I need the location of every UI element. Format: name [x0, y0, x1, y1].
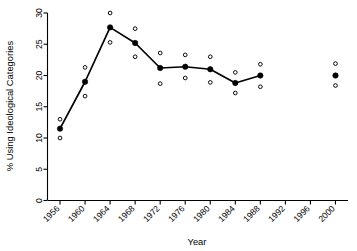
- ci-bound-marker: [133, 27, 137, 31]
- y-tick-label: 5: [34, 167, 44, 172]
- ci-bound-marker: [259, 62, 263, 66]
- ci-bound-marker: [158, 82, 162, 86]
- ci-bound-marker: [233, 71, 237, 75]
- y-tick-label: 0: [34, 198, 44, 203]
- ci-bound-marker: [208, 81, 212, 85]
- x-tick-label: 1972: [141, 203, 162, 224]
- axes: [48, 13, 349, 201]
- x-tick-label: 1988: [241, 203, 262, 224]
- x-axis-ticks: 1956196019641968197219761980198419881992…: [41, 201, 337, 224]
- mean-data-points: [57, 25, 338, 132]
- ci-bound-marker: [183, 53, 187, 57]
- ci-bound-marker: [108, 11, 112, 15]
- ci-bound-marker: [58, 136, 62, 140]
- ci-bound-marker: [259, 85, 263, 89]
- ci-bound-marker: [233, 91, 237, 95]
- mean-marker: [183, 64, 188, 69]
- mean-marker: [233, 80, 238, 85]
- ci-bound-marker: [58, 117, 62, 121]
- mean-marker: [157, 65, 162, 70]
- ci-bound-marker: [108, 41, 112, 45]
- mean-marker: [258, 73, 263, 78]
- x-tick-label: 1964: [91, 203, 112, 224]
- chart-container: 051015202530 195619601964196819721976198…: [0, 0, 357, 251]
- x-axis-title: Year: [188, 236, 207, 247]
- x-tick-label: 1992: [266, 203, 287, 224]
- ci-bound-marker: [334, 62, 338, 66]
- mean-marker: [132, 40, 137, 45]
- y-axis-title: % Using Ideological Categories: [4, 41, 15, 172]
- data-series: [57, 11, 338, 140]
- x-tick-label: 1956: [41, 203, 62, 224]
- y-tick-label: 15: [34, 102, 44, 112]
- ci-bound-marker: [208, 55, 212, 59]
- ideological-categories-line-chart: 051015202530 195619601964196819721976198…: [0, 0, 357, 251]
- ci-bound-marker: [83, 94, 87, 98]
- x-tick-label: 2000: [316, 203, 337, 224]
- x-tick-label: 1996: [291, 203, 312, 224]
- ci-bound-marker: [133, 55, 137, 59]
- ci-bound-marker: [334, 84, 338, 88]
- x-tick-label: 1980: [191, 203, 212, 224]
- x-tick-label: 1984: [216, 203, 237, 224]
- y-tick-label: 20: [34, 71, 44, 81]
- y-axis-ticks: 051015202530: [34, 8, 48, 203]
- y-tick-label: 30: [34, 8, 44, 18]
- x-tick-label: 1968: [116, 203, 137, 224]
- x-tick-label: 1976: [166, 203, 187, 224]
- mean-trend-line: [60, 27, 260, 128]
- mean-marker: [107, 25, 112, 30]
- mean-marker: [57, 126, 62, 131]
- y-tick-label: 10: [34, 133, 44, 143]
- mean-marker: [208, 67, 213, 72]
- mean-marker: [333, 73, 338, 78]
- ci-bound-marker: [158, 51, 162, 55]
- ci-bound-marker: [183, 76, 187, 80]
- confidence-interval-points: [58, 11, 337, 140]
- ci-bound-marker: [83, 66, 87, 70]
- y-tick-label: 25: [34, 39, 44, 49]
- mean-marker: [82, 79, 87, 84]
- x-tick-label: 1960: [66, 203, 87, 224]
